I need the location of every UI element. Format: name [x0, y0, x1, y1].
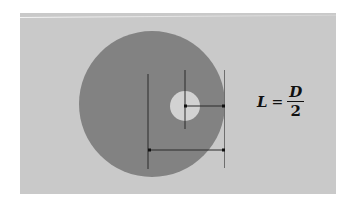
formula-lhs: L — [257, 93, 268, 111]
radius-formula: L = D 2 — [257, 85, 304, 119]
formula-fraction: D 2 — [287, 85, 304, 119]
diagram-stage: L = D 2 — [0, 0, 354, 206]
formula-denominator: 2 — [291, 102, 301, 119]
outer-disc — [79, 31, 225, 177]
formula-equals: = — [272, 94, 284, 110]
formula-numerator: D — [287, 85, 304, 102]
